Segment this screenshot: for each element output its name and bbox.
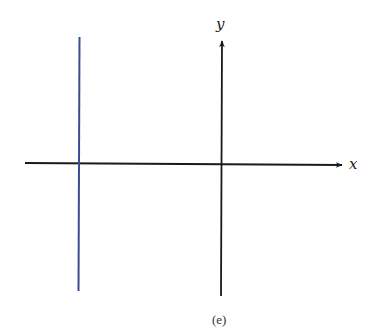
y-axis-label: y <box>216 17 224 32</box>
x-axis <box>25 163 342 165</box>
x-axis-label: x <box>349 157 357 172</box>
y-axis <box>221 41 222 296</box>
coordinate-plane <box>0 0 377 333</box>
vertical-graph-line <box>79 37 80 291</box>
figure-caption: (e) <box>212 313 226 326</box>
